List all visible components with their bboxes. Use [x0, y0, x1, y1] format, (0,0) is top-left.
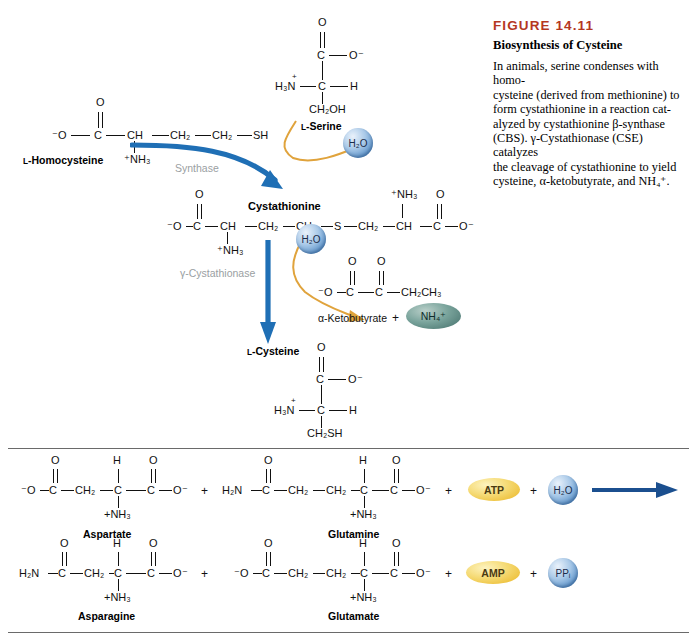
ketobutyrate-o2: O [377, 256, 386, 267]
glutamate-o2: O [392, 538, 401, 549]
glutamine-c2: C [390, 485, 398, 496]
asparagine-label: Asparagine [78, 610, 135, 622]
glutamate-label: Glutamate [328, 610, 379, 622]
glutamate-ch2-a: CH₂ [288, 568, 308, 579]
glutamine-ch2-b: CH₂ [326, 485, 346, 496]
caption-line-5: (CBS). γ-Cystathionase (CSE) catalyzes [493, 131, 685, 160]
cystathionine-o-minus-left: ⁻O [167, 221, 182, 232]
row1-plus-2: + [445, 484, 452, 498]
ketobutyrate-label: α-Ketobutyrate [318, 313, 387, 324]
enzyme-label-cystathionase: γ-Cystathionase [180, 267, 255, 279]
cysteine-carboxylate-o: O⁻ [348, 374, 363, 385]
figure-description: In animals, serine condenses with homo- … [493, 59, 685, 189]
homocysteine-carbonyl-o: O [96, 97, 105, 108]
aspartate-amino: +NH₃ [104, 509, 131, 520]
glutamate-h: H [359, 538, 367, 549]
row1-plus-1: + [201, 484, 208, 498]
asparagine-h: H [113, 538, 121, 549]
cystathionine-o-double-left: O [195, 189, 204, 200]
ketobutyrate-ethyl: CH₂CH₃ [401, 287, 442, 298]
cystathionine-ch-right: CH [396, 221, 412, 232]
row2-plus-3: + [530, 567, 537, 581]
glutamine-o-minus: O⁻ [416, 485, 431, 496]
homocysteine-label: L-Homocysteine [23, 154, 103, 166]
figure-number: FIGURE 14.11 [493, 18, 685, 33]
ketobutyrate-c1: C [346, 287, 354, 298]
water-bubble-1: H₂O [343, 128, 373, 158]
glutamine-o2: O [392, 455, 401, 466]
serine-carboxylate-o: O⁻ [349, 50, 364, 61]
figure-title: Biosynthesis of Cysteine [493, 38, 685, 53]
caption-line-2: cysteine (derived from methionine) to [493, 88, 685, 102]
figure-caption: FIGURE 14.11 Biosynthesis of Cysteine In… [493, 18, 685, 189]
caption-line-6: the cleavage of cystathionine to yield [493, 160, 685, 174]
aspartate-c1: C [49, 485, 57, 496]
asparagine-c-alpha: C [114, 568, 122, 579]
row1-plus-3: + [530, 484, 537, 498]
glutamate-o1: O [264, 538, 273, 549]
cystathionine-ch2-c: CH₂ [358, 221, 378, 232]
glutamine-amide-n: H₂N [222, 485, 242, 496]
row2-plus-2: + [445, 567, 452, 581]
aspartate-label: Aspartate [83, 528, 131, 540]
cystathionine-c2: C [433, 221, 441, 232]
aspartate-o1: O [51, 455, 60, 466]
asparagine-c1: C [58, 568, 66, 579]
ppi-bubble: PPᵢ [548, 558, 578, 588]
serine-amino-charge: + [292, 73, 297, 81]
aspartate-ch2: CH₂ [75, 485, 95, 496]
cystathionine-nh3-right: ⁺NH₃ [391, 189, 417, 200]
atp-oval: ATP [468, 478, 520, 501]
caption-line-7: cysteine, α-ketobutyrate, and NH₄⁺. [493, 174, 685, 188]
homocysteine-carboxylate-o: ⁻O [52, 130, 67, 141]
glutamine-h: H [359, 455, 367, 466]
cystathionine-nh3-left: ⁺NH₃ [217, 245, 243, 256]
cysteine-amino: H₃N [274, 405, 294, 416]
serine-h: H [350, 81, 358, 92]
serine-c1: C [317, 50, 325, 61]
water-bubble-2: H₂O [296, 224, 326, 254]
glutamine-label: Glutamine [328, 528, 379, 540]
ketobutyrate-o-minus: ⁻O [318, 287, 333, 298]
aspartate-o-minus-left: ⁻O [21, 485, 36, 496]
cysteine-h: H [349, 405, 357, 416]
aspartate-c2: C [147, 485, 155, 496]
glutamine-o1: O [264, 455, 273, 466]
caption-line-4: alyzed by cystathionine β-synthase [493, 117, 685, 131]
cystathionine-o-double-right: O [436, 189, 445, 200]
glutamate-c-alpha: C [360, 568, 368, 579]
cystathionine-c1: C [193, 221, 201, 232]
ketobutyrate-plus: + [392, 311, 399, 325]
glutamate-ch2-b: CH₂ [326, 568, 346, 579]
glutamine-ch2-a: CH₂ [288, 485, 308, 496]
cysteine-c1: C [316, 374, 324, 385]
ketobutyrate-o1: O [348, 256, 357, 267]
divider-top [8, 448, 689, 449]
amp-oval: AMP [466, 561, 520, 584]
cystathionine-ch-left: CH [220, 221, 236, 232]
cystathionine-label: Cystathionine [248, 200, 321, 212]
enzyme-label-synthase: Synthase [175, 162, 219, 174]
cysteine-carbonyl-o: O [317, 342, 326, 353]
cysteine-thiomethyl: CH₂SH [307, 428, 342, 439]
glutamine-amino: +NH₃ [350, 509, 377, 520]
asparagine-c2: C [147, 568, 155, 579]
ketobutyrate-c2: C [375, 287, 383, 298]
aspartate-o2: O [149, 455, 158, 466]
water-bubble-3: H₂O [548, 475, 578, 505]
asparagine-ch2: CH₂ [84, 568, 104, 579]
cystathionine-o-minus-right: O⁻ [459, 221, 474, 232]
serine-c-alpha: C [318, 81, 326, 92]
aspartate-h: H [113, 455, 121, 466]
aspartate-o-minus-right: O⁻ [173, 485, 188, 496]
reaction-arrow-main [592, 479, 682, 501]
synthase-reaction-arrows [130, 118, 380, 198]
glutamate-c1: C [262, 568, 270, 579]
asparagine-amide-n: H₂N [19, 568, 39, 579]
cysteine-label: L-Cysteine [247, 345, 299, 357]
cysteine-c-alpha: C [317, 405, 325, 416]
asparagine-o2: O [149, 538, 158, 549]
aspartate-c-alpha: C [114, 485, 122, 496]
glutamine-c1: C [262, 485, 270, 496]
ammonium-oval: NH₄⁺ [406, 303, 461, 329]
